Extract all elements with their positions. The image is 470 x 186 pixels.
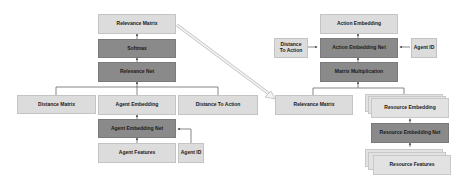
box-label: Agent Embedding Net	[111, 126, 163, 132]
box-label: Distance Matrix	[38, 102, 75, 108]
box-label: Resource Features	[389, 162, 434, 168]
resource-embedding-net-box: Resource Embedding Net	[371, 123, 449, 143]
box-label: Relevance Net	[120, 69, 154, 75]
box-label: Resource Embedding Net	[380, 130, 441, 136]
box-label: Matrix Multiplication	[335, 69, 383, 75]
box-label: Agent Embedding	[116, 102, 159, 108]
box-label: Relevance Matrix	[117, 21, 158, 27]
agent-id-box: Agent ID	[178, 143, 204, 163]
box-label: Agent Features	[119, 150, 155, 156]
relevance-matrix-input-box: Relevance Matrix	[275, 95, 353, 115]
action-embedding-net-box: Action Embedding Net	[320, 38, 398, 58]
transfer-arrow	[177, 25, 275, 99]
relevance-matrix-box: Relevance Matrix	[98, 14, 176, 34]
relevance-net-box: Relevance Net	[98, 62, 176, 82]
box-label: Resource Embedding	[384, 105, 435, 111]
box-label: Agent ID	[181, 150, 202, 156]
box-label: Relevance Matrix	[294, 102, 335, 108]
agent-features-box: Agent Features	[98, 143, 176, 163]
box-label: Action Embedding Net	[332, 45, 386, 51]
resource-features-box: Resource Features	[373, 155, 451, 175]
box-label: Softmax	[127, 46, 147, 52]
distance-matrix-box: Distance Matrix	[17, 95, 96, 114]
action-embedding-box: Action Embedding	[320, 14, 398, 34]
box-label: Action Embedding	[337, 21, 381, 27]
resource-embedding-box: Resource Embedding	[371, 98, 449, 118]
softmax-box: Softmax	[98, 39, 176, 58]
box-label: Distance To Action	[196, 102, 241, 108]
agent-embedding-net-box: Agent Embedding Net	[98, 119, 176, 138]
box-label: Agent ID	[414, 45, 435, 51]
box-label: Distance To Action	[279, 42, 303, 54]
distance-to-action-input-box: Distance To Action	[274, 38, 308, 58]
agent-embedding-box: Agent Embedding	[98, 95, 176, 115]
distance-to-action-box: Distance To Action	[178, 95, 258, 115]
matrix-multiplication-box: Matrix Multiplication	[320, 62, 398, 82]
agent-id-input-box: Agent ID	[411, 38, 437, 58]
